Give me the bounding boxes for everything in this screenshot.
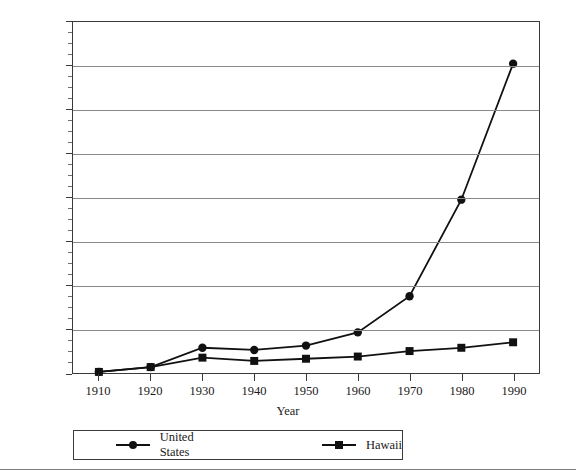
- x-axis-tick: [202, 374, 203, 381]
- gridline: [73, 110, 539, 111]
- x-axis-title: Year: [0, 404, 576, 419]
- data-point-united-states: [250, 346, 258, 354]
- y-axis-minor-tick: [68, 164, 72, 165]
- y-axis-minor-tick: [68, 263, 72, 264]
- legend-item-united-states: United States: [116, 430, 226, 460]
- y-axis-minor-tick: [68, 252, 72, 253]
- y-axis-minor-tick: [68, 54, 72, 55]
- x-axis-tick: [306, 374, 307, 381]
- y-axis-minor-tick: [68, 208, 72, 209]
- square-marker-icon: [322, 439, 356, 451]
- data-point-hawaii: [147, 363, 155, 371]
- data-point-united-states: [405, 292, 413, 300]
- x-axis-tick-label: 1940: [242, 385, 267, 398]
- x-axis-tick: [150, 374, 151, 381]
- y-axis-minor-tick: [68, 318, 72, 319]
- y-axis-major-tick: [66, 109, 72, 110]
- y-axis-major-tick: [66, 197, 72, 198]
- y-axis-major-tick: [66, 241, 72, 242]
- data-point-hawaii: [457, 344, 465, 352]
- footer-divider: [0, 469, 576, 470]
- y-axis-minor-tick: [68, 76, 72, 77]
- y-axis-minor-tick: [68, 340, 72, 341]
- x-axis-tick-label: 1970: [398, 385, 423, 398]
- data-point-hawaii: [302, 355, 310, 363]
- x-axis-tick: [410, 374, 411, 381]
- y-axis-minor-tick: [68, 362, 72, 363]
- data-point-united-states: [198, 344, 206, 352]
- legend-label-hawaii: Hawaii: [366, 438, 402, 453]
- x-axis-tick-label: 1920: [138, 385, 163, 398]
- data-point-hawaii: [354, 353, 362, 361]
- y-axis-major-tick: [66, 285, 72, 286]
- circle-marker-icon: [116, 439, 150, 451]
- gridline: [73, 66, 539, 67]
- legend-label-united-states: United States: [160, 430, 226, 460]
- x-axis-tick-label: 1930: [190, 385, 215, 398]
- y-axis-minor-tick: [68, 219, 72, 220]
- gridline: [73, 198, 539, 199]
- x-axis-tick: [514, 374, 515, 381]
- x-axis-tick: [254, 374, 255, 381]
- y-axis-major-tick: [66, 21, 72, 22]
- y-axis-minor-tick: [68, 186, 72, 187]
- y-axis-minor-tick: [68, 87, 72, 88]
- line-chart: 0200,000400,000600,000800,0001,000,0001,…: [0, 0, 576, 474]
- y-axis-major-tick: [66, 374, 72, 375]
- y-axis-minor-tick: [68, 274, 72, 275]
- y-axis-minor-tick: [68, 142, 72, 143]
- x-axis-tick-label: 1980: [450, 385, 475, 398]
- data-point-hawaii: [509, 338, 517, 346]
- gridline: [73, 330, 539, 331]
- gridline: [73, 154, 539, 155]
- data-point-hawaii: [250, 357, 258, 365]
- data-point-united-states: [457, 196, 465, 204]
- x-axis-tick: [358, 374, 359, 381]
- data-point-united-states: [302, 341, 310, 349]
- y-axis-minor-tick: [68, 32, 72, 33]
- gridline: [73, 242, 539, 243]
- y-axis-minor-tick: [68, 98, 72, 99]
- y-axis-minor-tick: [68, 351, 72, 352]
- x-axis-tick: [98, 374, 99, 381]
- y-axis-minor-tick: [68, 120, 72, 121]
- y-axis-minor-tick: [68, 296, 72, 297]
- y-axis-minor-tick: [68, 43, 72, 44]
- y-axis-tick-labels: 0200,000400,000600,000800,0001,000,0001,…: [0, 0, 68, 474]
- x-axis-tick: [462, 374, 463, 381]
- legend-item-hawaii: Hawaii: [322, 438, 402, 453]
- plot-area: [72, 21, 540, 374]
- y-axis-major-tick: [66, 65, 72, 66]
- x-axis-tick-label: 1990: [502, 385, 527, 398]
- x-axis-tick-label: 1960: [346, 385, 371, 398]
- x-axis-tick-label: 1910: [86, 385, 111, 398]
- y-axis-minor-tick: [68, 131, 72, 132]
- x-axis-tick-label: 1950: [294, 385, 319, 398]
- y-axis-minor-tick: [68, 307, 72, 308]
- y-axis-major-tick: [66, 153, 72, 154]
- data-point-hawaii: [406, 347, 414, 355]
- y-axis-minor-tick: [68, 175, 72, 176]
- y-axis-minor-tick: [68, 230, 72, 231]
- chart-legend: United States Hawaii: [73, 430, 403, 460]
- data-point-hawaii: [198, 354, 206, 362]
- y-axis-major-tick: [66, 329, 72, 330]
- gridline: [73, 286, 539, 287]
